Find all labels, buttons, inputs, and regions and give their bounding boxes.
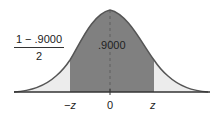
left-tail-region xyxy=(14,60,70,92)
axis-label-neg-z: −z xyxy=(64,100,76,111)
center-area-label: .9000 xyxy=(98,40,126,51)
fraction-numerator: 1 − .9000 xyxy=(14,33,64,48)
right-tail-region xyxy=(154,60,208,92)
axis-label-zero: 0 xyxy=(107,100,113,111)
tail-area-fraction: 1 − .9000 2 xyxy=(14,33,64,62)
fraction-denominator: 2 xyxy=(14,48,64,62)
center-shaded-region xyxy=(70,10,154,92)
axis-label-z: z xyxy=(150,100,156,111)
